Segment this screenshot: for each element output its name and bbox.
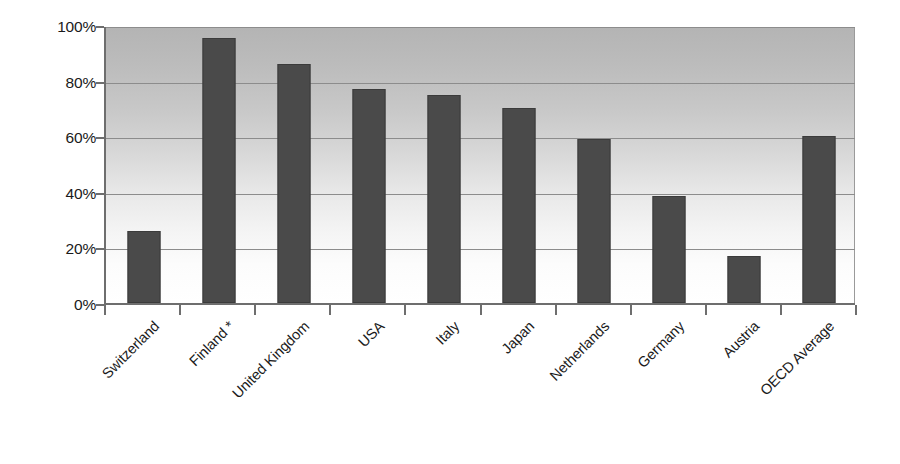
bar-united-kingdom[interactable]	[277, 64, 310, 303]
bar-slot	[406, 27, 481, 303]
bar-slot	[782, 27, 857, 303]
bar-italy[interactable]	[427, 95, 460, 304]
bar-usa[interactable]	[352, 89, 385, 303]
bar-switzerland[interactable]	[127, 231, 160, 303]
x-axis-label-usa: USA	[355, 318, 387, 350]
x-axis-tick-mark	[555, 305, 557, 315]
x-axis-tick-mark	[705, 305, 707, 315]
bar-slot	[707, 27, 782, 303]
y-axis-tick-mark	[96, 193, 104, 195]
y-axis-tick-mark	[96, 82, 104, 84]
x-axis-tick-mark	[104, 305, 106, 315]
x-axis-label-germany: Germany	[635, 318, 688, 371]
bar-germany[interactable]	[653, 196, 686, 303]
x-axis-tick-mark	[480, 305, 482, 315]
bar-austria[interactable]	[728, 256, 761, 303]
y-axis-tick-mark	[96, 26, 104, 28]
x-axis-tick-mark	[780, 305, 782, 315]
bar-slot	[331, 27, 406, 303]
x-axis-tick-mark	[179, 305, 181, 315]
plot-area	[104, 27, 855, 305]
y-axis-tick-mark	[96, 304, 104, 306]
x-axis-tick-mark	[630, 305, 632, 315]
x-axis-label-oecd-average: OECD Average	[757, 318, 837, 398]
x-axis-label-finland: Finland *	[186, 318, 237, 369]
x-axis-tick-mark	[404, 305, 406, 315]
bar-slot	[181, 27, 256, 303]
x-axis-tick-mark	[855, 305, 857, 315]
x-axis-label-united-kingdom: United Kingdom	[229, 318, 312, 401]
x-axis-label-austria: Austria	[720, 318, 763, 361]
y-axis-ticks	[0, 27, 104, 305]
y-axis-tick-mark	[96, 248, 104, 250]
bar-chart: 0%20%40%60%80%100% SwitzerlandFinland *U…	[0, 0, 900, 464]
bar-oecd-average[interactable]	[803, 136, 836, 303]
bar-slot	[632, 27, 707, 303]
bar-finland[interactable]	[202, 38, 235, 303]
bar-japan[interactable]	[503, 108, 536, 303]
x-axis-label-italy: Italy	[433, 318, 463, 348]
x-axis-label-netherlands: Netherlands	[547, 318, 613, 384]
bar-slot	[482, 27, 557, 303]
bar-slot	[256, 27, 331, 303]
x-axis-tick-mark	[329, 305, 331, 315]
x-axis-label-switzerland: Switzerland	[98, 318, 162, 382]
bar-netherlands[interactable]	[578, 139, 611, 303]
x-axis-label-japan: Japan	[498, 318, 537, 357]
y-axis-tick-mark	[96, 137, 104, 139]
bar-slot	[106, 27, 181, 303]
x-axis-tick-mark	[254, 305, 256, 315]
bar-slot	[557, 27, 632, 303]
